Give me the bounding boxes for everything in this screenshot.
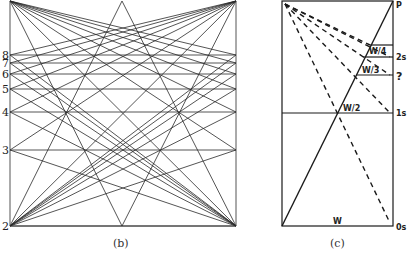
figure-b-level-labels: 8 7 6 5 4 3 2 — [2, 49, 9, 233]
label-2s: 2s — [396, 53, 407, 62]
diagram-canvas: 8 7 6 5 4 3 2 (b) P W/4 2s W/3 ? W/2 1s … — [0, 0, 411, 254]
label-w: W — [333, 217, 342, 226]
figure-b-perspective-grid — [10, 1, 236, 226]
level-label-6: 6 — [2, 68, 9, 81]
label-0s: 0s — [396, 223, 407, 232]
figure-b-caption: (b) — [113, 237, 129, 250]
figure-c-diagram — [282, 1, 393, 226]
label-w3: W/3 — [362, 66, 379, 75]
level-label-2: 2 — [2, 220, 9, 233]
level-label-5: 5 — [2, 83, 9, 96]
level-label-4: 4 — [2, 106, 9, 119]
figure-c-labels: P W/4 2s W/3 ? W/2 1s W 0s — [333, 1, 407, 232]
label-w2: W/2 — [343, 104, 360, 113]
label-unknown: ? — [396, 70, 402, 83]
label-w4: W/4 — [369, 47, 387, 56]
figure-c-caption: (c) — [330, 237, 345, 250]
level-label-3: 3 — [2, 144, 9, 157]
label-1s: 1s — [396, 109, 407, 118]
label-p: P — [396, 1, 402, 10]
